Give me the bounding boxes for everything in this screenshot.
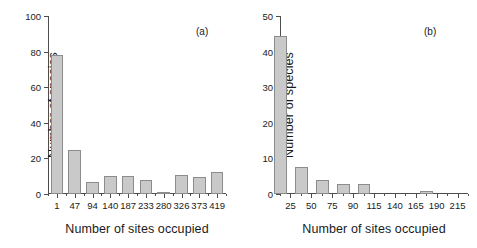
bar: [211, 172, 223, 194]
x-tick-mark: [374, 194, 375, 198]
x-tick-mark: [353, 194, 354, 198]
x-tick-label: 233: [138, 200, 154, 211]
x-axis-label-a: Number of sites occupied: [48, 222, 226, 236]
x-minor-tick-mark: [468, 194, 469, 196]
x-tick-label: 25: [285, 200, 296, 211]
x-tick-mark: [217, 194, 218, 198]
y-tick-mark: [44, 87, 48, 88]
x-tick-label: 1: [54, 200, 59, 211]
x-minor-tick-mark: [66, 194, 67, 196]
x-minor-tick-mark: [384, 194, 385, 196]
x-minor-tick-mark: [280, 194, 281, 196]
x-tick-label: 140: [387, 200, 403, 211]
y-tick-mark: [44, 158, 48, 159]
bar: [122, 176, 134, 194]
x-minor-tick-mark: [48, 194, 49, 196]
x-minor-tick-mark: [101, 194, 102, 196]
figure-two-panel-histograms: Number of species 0204060801001479414018…: [0, 0, 477, 248]
y-tick-mark: [44, 123, 48, 124]
x-tick-label: 50: [306, 200, 317, 211]
bar: [140, 180, 152, 194]
x-tick-label: 94: [87, 200, 98, 211]
x-tick-label: 165: [408, 200, 424, 211]
y-tick-mark: [44, 16, 48, 17]
x-minor-tick-mark: [226, 194, 227, 196]
y-tick-mark: [276, 16, 280, 17]
x-minor-tick-mark: [119, 194, 120, 196]
bar: [295, 167, 308, 194]
x-tick-label: 140: [102, 200, 118, 211]
x-tick-label: 115: [366, 200, 381, 211]
x-minor-tick-mark: [84, 194, 85, 196]
bar: [175, 175, 187, 194]
y-tick-label: 20: [249, 117, 273, 128]
x-tick-label: 419: [209, 200, 225, 211]
x-tick-mark: [75, 194, 76, 198]
x-tick-mark: [416, 194, 417, 198]
x-tick-label: 215: [450, 200, 466, 211]
plot-area-b: Number of species 0102030405025507590115…: [280, 16, 468, 194]
x-minor-tick-mark: [155, 194, 156, 196]
x-tick-mark: [332, 194, 333, 198]
bar: [358, 184, 371, 194]
y-tick-label: 80: [17, 46, 41, 57]
y-tick-label: 60: [17, 82, 41, 93]
x-tick-mark: [93, 194, 94, 198]
x-tick-mark: [437, 194, 438, 198]
x-tick-mark: [290, 194, 291, 198]
x-tick-mark: [57, 194, 58, 198]
y-tick-label: 50: [249, 11, 273, 22]
x-minor-tick-mark: [137, 194, 138, 196]
x-tick-mark: [395, 194, 396, 198]
x-tick-mark: [128, 194, 129, 198]
x-tick-mark: [110, 194, 111, 198]
x-axis-label-b: Number of sites occupied: [280, 222, 468, 236]
x-tick-mark: [199, 194, 200, 198]
x-tick-label: 47: [69, 200, 80, 211]
x-minor-tick-mark: [190, 194, 191, 196]
panel-tag-a: (a): [196, 26, 208, 37]
x-minor-tick-mark: [405, 194, 406, 196]
x-minor-tick-mark: [322, 194, 323, 196]
x-minor-tick-mark: [173, 194, 174, 196]
y-tick-label: 40: [249, 46, 273, 57]
x-minor-tick-mark: [447, 194, 448, 196]
panel-b: Number of species 0102030405025507590115…: [238, 0, 476, 248]
panel-a: Number of species 0204060801001479414018…: [0, 0, 238, 248]
y-tick-label: 20: [17, 153, 41, 164]
bar: [337, 184, 350, 194]
bar: [316, 180, 329, 194]
x-tick-label: 190: [429, 200, 445, 211]
y-tick-label: 10: [249, 153, 273, 164]
x-minor-tick-mark: [426, 194, 427, 196]
y-tick-label: 0: [249, 189, 273, 200]
bar: [68, 150, 80, 195]
x-tick-mark: [311, 194, 312, 198]
x-tick-mark: [164, 194, 165, 198]
x-minor-tick-mark: [208, 194, 209, 196]
y-tick-mark: [44, 52, 48, 53]
x-tick-label: 75: [327, 200, 338, 211]
x-tick-mark: [182, 194, 183, 198]
x-tick-mark: [146, 194, 147, 198]
bar: [51, 55, 63, 194]
x-tick-label: 373: [191, 200, 207, 211]
bar: [193, 177, 205, 194]
panel-tag-b: (b): [424, 26, 436, 37]
x-minor-tick-mark: [301, 194, 302, 196]
x-minor-tick-mark: [343, 194, 344, 196]
x-minor-tick-mark: [364, 194, 365, 196]
x-tick-label: 326: [174, 200, 190, 211]
plot-area-a: Number of species 0204060801001479414018…: [48, 16, 226, 194]
y-tick-label: 30: [249, 82, 273, 93]
bar: [86, 182, 98, 194]
x-tick-label: 187: [120, 200, 136, 211]
bar: [104, 176, 116, 194]
y-tick-label: 0: [17, 189, 41, 200]
x-tick-label: 90: [348, 200, 359, 211]
y-tick-label: 100: [17, 11, 41, 22]
bar: [274, 36, 287, 194]
y-tick-label: 40: [17, 117, 41, 128]
x-tick-label: 280: [156, 200, 172, 211]
x-tick-mark: [458, 194, 459, 198]
